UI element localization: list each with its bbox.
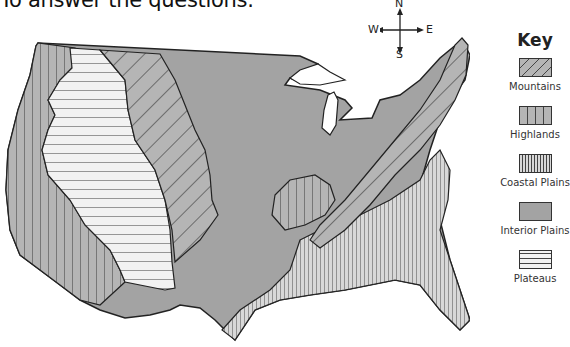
map-key: Key Mountains Highlands Coastal Plains I… [500, 30, 570, 298]
compass-west: W [368, 23, 379, 36]
key-label: Mountains [509, 81, 561, 92]
key-label: Plateaus [514, 273, 557, 284]
compass-east: E [426, 23, 433, 36]
key-label: Highlands [510, 129, 560, 140]
compass-north: N [395, 0, 403, 10]
key-item-highlands: Highlands [500, 106, 570, 140]
compass-rose: N S E W [380, 0, 460, 60]
compass-south: S [396, 48, 403, 61]
key-title: Key [500, 30, 570, 50]
key-item-interior-plains: Interior Plains [500, 202, 570, 236]
key-item-coastal-plains: Coastal Plains [500, 154, 570, 188]
key-label: Interior Plains [501, 225, 570, 236]
coastal-plains-swatch-icon [519, 154, 552, 173]
mountains-swatch-icon [519, 58, 552, 77]
compass-arrows-icon [380, 0, 460, 60]
highlands-swatch-icon [519, 106, 552, 125]
key-label: Coastal Plains [500, 177, 570, 188]
plateaus-swatch-icon [519, 250, 552, 269]
interior-plains-swatch-icon [519, 202, 552, 221]
key-item-plateaus: Plateaus [500, 250, 570, 284]
key-item-mountains: Mountains [500, 58, 570, 92]
